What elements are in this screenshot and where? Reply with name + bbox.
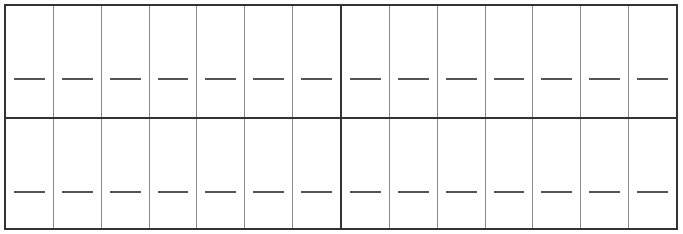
grid-cell[interactable] (244, 119, 292, 228)
grid-row (6, 6, 676, 117)
answer-blank-line[interactable] (14, 78, 45, 80)
answer-blank-line[interactable] (205, 191, 236, 193)
grid-cell[interactable] (389, 119, 437, 228)
grid-cell[interactable] (196, 6, 244, 117)
grid-cell[interactable] (340, 6, 389, 117)
answer-blank-line[interactable] (446, 191, 477, 193)
answer-blank-line[interactable] (350, 78, 381, 80)
answer-blank-line[interactable] (589, 191, 620, 193)
answer-blank-line[interactable] (494, 78, 525, 80)
grid-cell[interactable] (628, 119, 676, 228)
grid-cell[interactable] (292, 6, 340, 117)
grid-cell[interactable] (101, 119, 149, 228)
answer-blank-line[interactable] (205, 78, 236, 80)
grid-cell[interactable] (389, 6, 437, 117)
grid-cell[interactable] (196, 119, 244, 228)
answer-blank-line[interactable] (637, 191, 668, 193)
answer-blank-line[interactable] (637, 78, 668, 80)
answer-blank-line[interactable] (253, 191, 284, 193)
answer-blank-line[interactable] (541, 191, 572, 193)
grid-cell[interactable] (437, 6, 485, 117)
grid-cell[interactable] (532, 119, 580, 228)
answer-blank-line[interactable] (14, 191, 45, 193)
answer-blank-line[interactable] (110, 78, 141, 80)
answer-blank-line[interactable] (301, 191, 332, 193)
answer-blank-line[interactable] (158, 191, 189, 193)
answer-blank-line[interactable] (398, 78, 429, 80)
grid-cell[interactable] (101, 6, 149, 117)
answer-blank-line[interactable] (398, 191, 429, 193)
answer-blank-line[interactable] (158, 78, 189, 80)
grid-cell[interactable] (244, 6, 292, 117)
answer-grid (4, 4, 678, 230)
answer-blank-line[interactable] (110, 191, 141, 193)
answer-blank-line[interactable] (589, 78, 620, 80)
answer-blank-line[interactable] (253, 78, 284, 80)
grid-cell[interactable] (292, 119, 340, 228)
grid-cell[interactable] (149, 6, 197, 117)
grid-cell[interactable] (149, 119, 197, 228)
answer-blank-line[interactable] (541, 78, 572, 80)
grid-cell[interactable] (53, 119, 101, 228)
grid-cell[interactable] (485, 6, 533, 117)
answer-blank-line[interactable] (62, 191, 93, 193)
grid-cell[interactable] (485, 119, 533, 228)
answer-blank-line[interactable] (494, 191, 525, 193)
grid-cell[interactable] (340, 119, 389, 228)
answer-blank-line[interactable] (446, 78, 477, 80)
grid-cell[interactable] (580, 6, 628, 117)
grid-row (6, 117, 676, 228)
answer-blank-line[interactable] (350, 191, 381, 193)
answer-blank-line[interactable] (301, 78, 332, 80)
grid-cell[interactable] (628, 6, 676, 117)
grid-cell[interactable] (532, 6, 580, 117)
grid-cell[interactable] (437, 119, 485, 228)
grid-cell[interactable] (580, 119, 628, 228)
grid-cell[interactable] (6, 6, 53, 117)
grid-cell[interactable] (6, 119, 53, 228)
grid-cell[interactable] (53, 6, 101, 117)
answer-blank-line[interactable] (62, 78, 93, 80)
